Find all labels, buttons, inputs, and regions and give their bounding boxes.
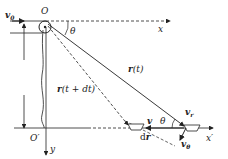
r-t-vector bbox=[48, 24, 184, 126]
theta-top-label: θ bbox=[70, 26, 76, 36]
y-label: y bbox=[49, 144, 56, 154]
v-theta-label: vθ bbox=[181, 139, 190, 150]
boat-right bbox=[184, 125, 200, 131]
kinematics-diagram: v0 O θ x r(t) r(t + dt) O′ y vr θ v dr v… bbox=[0, 0, 228, 159]
theta-bottom-label: θ bbox=[160, 116, 166, 126]
r-t-dt-label: r(t + dt) bbox=[57, 84, 96, 94]
boat-left bbox=[128, 124, 144, 130]
origin-label: O bbox=[41, 6, 49, 16]
v-label: v bbox=[147, 116, 153, 126]
origin-prime-label: O′ bbox=[30, 133, 39, 143]
x-prime-label: x′ bbox=[206, 133, 213, 143]
dr-label: dr bbox=[140, 132, 152, 142]
v0-label: v0 bbox=[5, 10, 15, 21]
vr-label: vr bbox=[185, 107, 194, 118]
r-t-label: r(t) bbox=[128, 64, 144, 74]
x-label: x bbox=[158, 24, 163, 34]
